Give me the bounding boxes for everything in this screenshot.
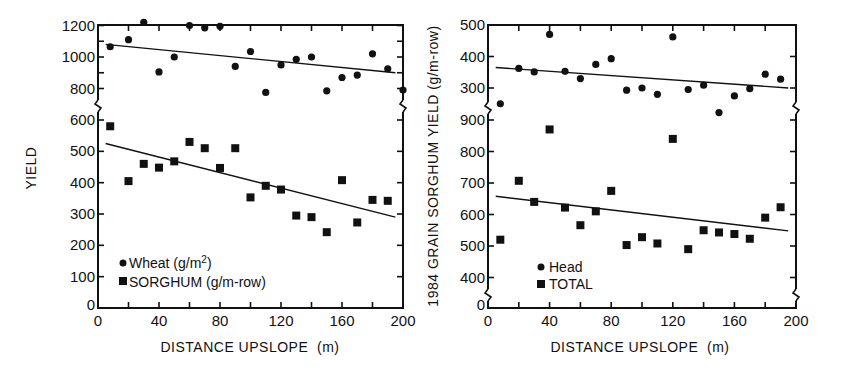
data-point-square [292,212,300,220]
data-point-square [684,245,692,253]
figure: 120010008006005004003002001000 040801201… [0,0,842,376]
y-tick-label: 100 [70,268,95,285]
right-legend: Head TOTAL [537,259,593,292]
data-point-circle [308,53,315,60]
data-point-square [561,204,569,212]
y-tick-label: 500 [70,142,95,159]
data-point-circle [746,85,753,92]
y-tick-label: 400 [460,269,485,286]
legend-square-icon [537,280,545,288]
data-point-square [338,176,346,184]
x-tick-label: 200 [390,312,415,329]
y-tick-label: 0 [87,296,95,313]
legend-total-label: TOTAL [549,276,593,292]
x-tick-label: 120 [268,312,293,329]
right-chart-panel: 5004003009008007006005004000 04080120160… [425,16,809,355]
data-point-square [231,144,239,152]
data-point-circle [232,63,239,70]
data-point-circle [685,86,692,93]
data-point-circle [623,87,630,94]
y-tick-label: 500 [460,237,485,254]
y-tick-label: 400 [460,48,485,65]
legend-wheat-label: Wheat (g/m2) [129,254,212,271]
y-tick-label: 1000 [62,48,95,65]
data-point-square [515,177,523,185]
data-point-square [746,235,754,243]
x-tick-label: 160 [722,312,747,329]
data-point-circle [125,36,132,43]
x-tick-label: 120 [660,312,685,329]
x-tick-label: 0 [484,312,492,329]
data-point-square [353,218,361,226]
data-point-circle [140,19,147,26]
data-point-circle [399,86,406,93]
x-tick-label: 200 [783,312,808,329]
right-ticks [488,25,796,308]
x-tick-label: 80 [212,312,229,329]
left-y-axis-title: YIELD [23,147,39,190]
data-point-circle [354,72,361,79]
x-tick-label: 80 [603,312,620,329]
right-data-points [496,31,784,253]
data-point-circle [592,61,599,68]
data-point-circle [531,68,538,75]
data-point-circle [338,74,345,81]
data-point-circle [497,100,504,107]
data-point-square [216,164,224,172]
y-tick-label: 300 [460,79,485,96]
data-point-square [761,214,769,222]
y-tick-label: 500 [460,16,485,33]
legend-circle-icon [538,264,545,271]
trendline [106,144,396,218]
data-point-circle [293,56,300,63]
data-point-square [384,197,392,205]
x-tick-label: 160 [329,312,354,329]
data-point-circle [216,23,223,30]
right-plot-frame [488,25,796,308]
data-point-circle [561,68,568,75]
left-data-points [106,19,406,236]
data-point-square [106,122,114,130]
y-tick-label: 700 [460,174,485,191]
data-point-square [623,241,631,249]
y-tick-label: 300 [70,205,95,222]
y-tick-label: 800 [70,80,95,97]
data-point-circle [247,48,254,55]
y-tick-label: 200 [70,236,95,253]
left-y-tick-labels: 120010008006005004003002001000 [62,17,95,314]
data-point-circle [107,43,114,50]
data-point-circle [201,24,208,31]
right-y-tick-labels: 5004003009008007006005004000 [460,16,485,313]
data-point-square [592,207,600,215]
y-tick-label: 600 [70,111,95,128]
data-point-circle [369,50,376,57]
data-point-square [262,182,270,190]
data-point-square [277,186,285,194]
data-point-square [140,160,148,168]
right-x-tick-labels: 04080120160200 [484,312,809,329]
data-point-square [369,196,377,204]
left-chart-panel: 120010008006005004003002001000 040801201… [23,17,416,356]
data-point-square [170,157,178,165]
right-trendlines [496,68,789,231]
data-point-square [576,221,584,229]
legend-circle-icon [120,260,127,267]
trendline [496,196,789,231]
data-point-circle [577,75,584,82]
data-point-circle [186,22,193,29]
data-point-circle [777,76,784,83]
data-point-circle [654,91,661,98]
data-point-square [700,226,708,234]
data-point-circle [515,65,522,72]
data-point-square [638,233,646,241]
data-point-square [546,125,554,133]
data-point-square [201,144,209,152]
data-point-circle [608,55,615,62]
data-point-circle [384,65,391,72]
data-point-square [669,135,677,143]
x-tick-label: 0 [94,312,102,329]
data-point-square [530,198,538,206]
y-tick-label: 600 [460,206,485,223]
data-point-square [607,187,615,195]
data-point-circle [700,82,707,89]
